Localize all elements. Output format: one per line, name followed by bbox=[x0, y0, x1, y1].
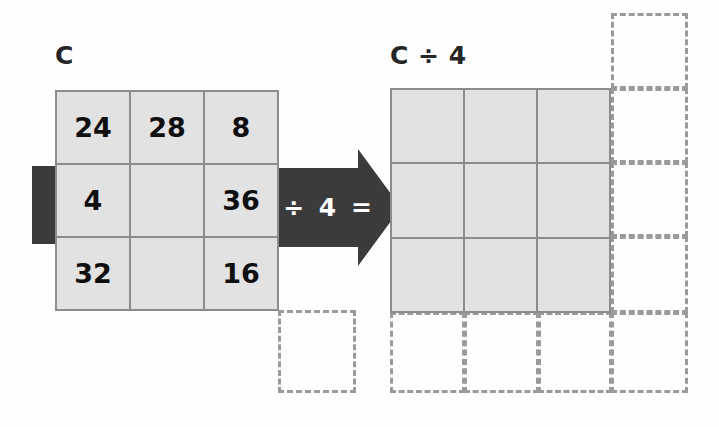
matrix-cell bbox=[392, 164, 463, 236]
matrix-cell bbox=[465, 239, 536, 311]
dashed-placeholder-cell bbox=[611, 236, 688, 313]
right-matrix-label: C ÷ 4 bbox=[390, 43, 467, 68]
matrix-cell: 36 bbox=[205, 165, 277, 236]
matrix-cell bbox=[465, 164, 536, 236]
matrix-cell: 8 bbox=[205, 92, 277, 163]
matrix-cell bbox=[131, 165, 203, 236]
row-highlight-bar bbox=[32, 166, 57, 244]
matrix-cell bbox=[538, 239, 609, 311]
right-matrix-grid bbox=[390, 88, 611, 313]
dashed-placeholder-cell bbox=[611, 88, 688, 163]
dashed-placeholder-cell bbox=[611, 13, 688, 89]
left-matrix-label: C bbox=[55, 43, 74, 68]
dashed-placeholder-cell bbox=[611, 162, 688, 237]
left-matrix-grid: 24 28 8 4 36 32 16 bbox=[55, 90, 279, 311]
matrix-cell bbox=[392, 239, 463, 311]
dashed-placeholder-cell bbox=[464, 312, 539, 393]
matrix-cell bbox=[538, 90, 609, 162]
matrix-cell: 4 bbox=[57, 165, 129, 236]
dashed-placeholder-cell bbox=[278, 310, 356, 393]
matrix-cell: 28 bbox=[131, 92, 203, 163]
dashed-placeholder-cell bbox=[611, 312, 688, 393]
matrix-cell bbox=[392, 90, 463, 162]
figure-canvas: C 24 28 8 4 36 32 16 ÷ 4 = C ÷ 4 bbox=[0, 0, 719, 427]
matrix-cell bbox=[131, 238, 203, 309]
matrix-cell bbox=[538, 164, 609, 236]
dashed-placeholder-cell bbox=[538, 312, 612, 393]
matrix-cell: 16 bbox=[205, 238, 277, 309]
right-arrow-icon bbox=[274, 149, 401, 266]
matrix-cell: 32 bbox=[57, 238, 129, 309]
matrix-cell: 24 bbox=[57, 92, 129, 163]
matrix-cell bbox=[465, 90, 536, 162]
dashed-placeholder-cell bbox=[390, 312, 465, 393]
